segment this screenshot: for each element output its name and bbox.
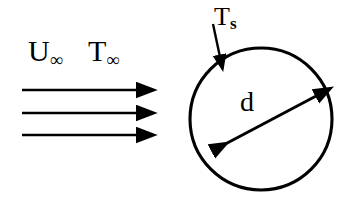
label-t-symbol: T (88, 34, 106, 67)
flow-arrow-group (22, 90, 139, 135)
label-ts-subscript: s (230, 14, 237, 33)
diameter-arrow (214, 95, 318, 150)
cylinder-circle (190, 48, 332, 190)
label-ts-symbol: T (214, 2, 230, 31)
label-diameter: d (240, 88, 254, 116)
label-free-stream-velocity: U∞ (28, 36, 63, 70)
label-free-stream-temperature: T∞ (88, 36, 120, 70)
diagram-canvas (0, 0, 346, 203)
label-u-subscript: ∞ (50, 49, 63, 70)
label-t-subscript: ∞ (106, 49, 119, 70)
label-u-symbol: U (28, 34, 50, 67)
cylinder-crossflow-diagram: U∞ T∞ Ts d (0, 0, 346, 203)
label-surface-temperature: Ts (214, 4, 237, 32)
